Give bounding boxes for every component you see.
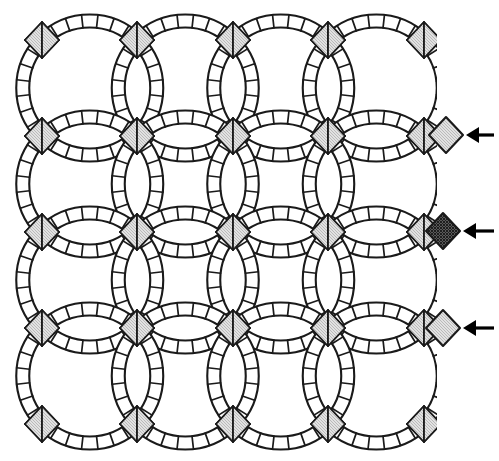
diagram-canvas <box>0 0 499 461</box>
quilt-pattern-svg <box>0 0 499 461</box>
